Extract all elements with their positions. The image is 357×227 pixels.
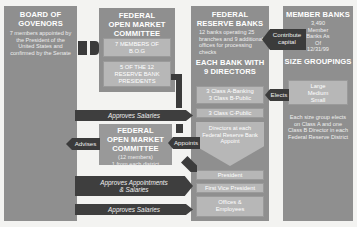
- member-banks-description: Each size group elects on Class A and on…: [288, 114, 348, 140]
- first-vp-box: First Vice President: [196, 183, 264, 193]
- appoints-arrow: Appoints: [168, 137, 200, 149]
- fomc-bottom-district: 1 from each district: [99, 161, 172, 168]
- appoints-connector-block: [176, 124, 183, 133]
- fomc-bottom-title-line3: COMMITTEE: [99, 144, 172, 153]
- frb-title-line1: FEDERAL: [191, 10, 269, 19]
- class-c-text: 3 Class C-Public: [209, 110, 252, 116]
- officers-box: Offices & Employees: [196, 196, 264, 217]
- approves-salaries-arrow-2: Approves Salaries: [75, 204, 193, 215]
- fomc-members-bog-text: 7 MEMBERS OF B.O.G: [115, 41, 159, 54]
- advises-arrow: Advises: [66, 138, 100, 150]
- board-fomc-connector-right: [90, 41, 99, 55]
- contribute-line2: capital: [270, 38, 304, 45]
- fomc-members-presidents-text: 5 OF THE 12 RESERVE BANK PRESIDENTS: [115, 64, 160, 84]
- board-title-line2: GOVENORS: [4, 19, 77, 28]
- fomc-bottom-title-line2: OPEN MARKET: [99, 135, 172, 144]
- elects-text: Elects: [271, 91, 288, 98]
- fomc-top-title-line2: OPEN MARKET: [99, 20, 175, 29]
- size-medium: Medium: [289, 90, 347, 97]
- member-banks-title: MEMBER BANKS: [283, 10, 353, 19]
- approves-salaries-arrow-1: Approves Salaries: [75, 110, 193, 121]
- approves-salaries-text-2: Approves Salaries: [108, 206, 160, 213]
- board-fomc-connector-left: [78, 41, 87, 55]
- size-small: Small: [289, 97, 347, 104]
- fomc-top-title-line3: COMMITTEE: [99, 29, 175, 38]
- officers-text: Offices & Employees: [216, 199, 245, 212]
- frb-subtitle-line1: EACH BANK WITH: [191, 58, 269, 67]
- size-large: Large: [289, 83, 347, 90]
- approves-salaries-text-1: Approves Salaries: [108, 112, 160, 119]
- elects-arrow: Elects: [265, 89, 289, 101]
- approves-appointments-line1: Approves Appointments: [75, 179, 193, 186]
- fomc-top-title-line1: FEDERAL: [99, 11, 175, 20]
- advises-text: Advises: [75, 140, 97, 147]
- board-of-governors-box: BOARD OF GOVENORS 7 members appointed by…: [4, 6, 77, 221]
- first-vp-text: First Vice President: [205, 185, 255, 191]
- class-a-text: 3 Class A-Banking: [197, 88, 263, 95]
- directors-appoint-text: Directors at each Federal Reserve Bank A…: [200, 125, 260, 145]
- directors-class-ab: 3 Class A-Banking 3 Class B-Public: [196, 86, 264, 104]
- class-b-text: 3 Class B-Public: [197, 95, 263, 102]
- fomc-bottom-box: FEDERAL OPEN MARKET COMMITTEE (12 member…: [99, 124, 172, 165]
- frb-description: 12 banks operating 25 branches and 9 add…: [191, 28, 269, 55]
- appoints-text: Appoints: [174, 139, 198, 146]
- board-title-line1: BOARD OF: [4, 10, 77, 19]
- size-groupings-title: SIZE GROUPINGS: [283, 57, 353, 66]
- frb-title-line2: RESERVE BANKS: [191, 19, 269, 28]
- approves-appointments-line2: & Salaries: [75, 186, 193, 193]
- president-box: President: [196, 170, 264, 180]
- fomc-members-bog: 7 MEMBERS OF B.O.G: [103, 38, 171, 57]
- size-groupings-list: Large Medium Small: [288, 80, 348, 105]
- fomc-members-presidents: 5 OF THE 12 RESERVE BANK PRESIDENTS: [103, 61, 171, 87]
- fomc-bottom-members: (12 members): [99, 154, 172, 161]
- approves-appointments-arrow: Approves Appointments & Salaries: [75, 176, 193, 196]
- contribute-capital-arrow: Contribute capital: [262, 29, 306, 50]
- board-description: 7 members appointed by the President of …: [4, 30, 77, 56]
- president-text: President: [218, 172, 243, 178]
- fomc-bottom-title-line1: FEDERAL: [99, 126, 172, 135]
- presidents-connector-v: [176, 74, 182, 108]
- directors-class-c: 3 Class C-Public: [196, 108, 264, 118]
- frb-subtitle-line2: 9 DIRECTORS: [191, 67, 269, 76]
- contribute-line1: Contribute: [270, 31, 304, 38]
